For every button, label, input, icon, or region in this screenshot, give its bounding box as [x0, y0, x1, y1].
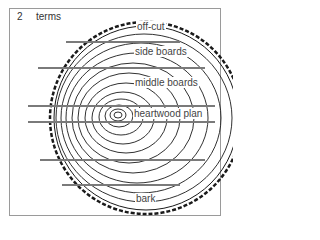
label-middle-boards: middle boards [134, 77, 199, 88]
label-bark: bark [135, 193, 156, 204]
label-heartwood-plank: heartwood plan [133, 108, 203, 119]
label-side-boards: side boards [134, 46, 188, 57]
label-off-cut: off-cut [136, 21, 166, 32]
